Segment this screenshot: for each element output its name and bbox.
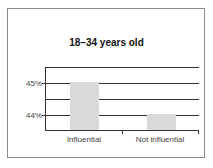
gridline-44 — [46, 115, 199, 116]
gridline-top — [46, 67, 199, 68]
y-tick-label-44: 44% — [26, 111, 42, 120]
x-label-not-influential: Not influential — [136, 135, 184, 144]
gridline-mid — [46, 99, 199, 100]
bar-influential — [70, 82, 99, 130]
gridline-45 — [46, 83, 199, 84]
x-tick-end — [198, 131, 199, 134]
bar-not-influential — [147, 114, 176, 130]
y-tick-label-45: 45% — [26, 79, 42, 88]
y-tick-45 — [42, 83, 46, 84]
chart-title: 18–34 years old — [0, 37, 213, 48]
plot-area — [45, 67, 199, 131]
y-tick-44 — [42, 115, 46, 116]
x-tick-divider — [122, 131, 123, 134]
x-label-influential: Influential — [67, 135, 101, 144]
